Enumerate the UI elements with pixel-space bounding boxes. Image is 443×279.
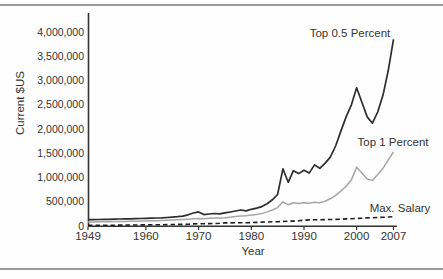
x-axis-tick-labels: 1949196019701980199020002007 <box>75 227 406 242</box>
y-tick-label: 2,500,000 <box>37 98 84 110</box>
x-axis-title: Year <box>241 245 264 257</box>
y-axis-title: Current $US <box>14 71 26 135</box>
series-line-top-1-percent <box>88 152 394 222</box>
series-label-top-0-5-percent: Top 0.5 Percent <box>310 27 391 39</box>
y-axis-tick-labels: 0500,0001,000,0001,500,0002,000,0002,500… <box>37 26 84 232</box>
top-divider-rule <box>0 4 443 6</box>
y-tick-label: 2,000,000 <box>37 123 84 135</box>
series-label-top-1-percent: Top 1 Percent <box>358 136 430 148</box>
bottom-divider-rule <box>0 268 443 270</box>
y-tick-label: 1,000,000 <box>37 171 84 183</box>
y-tick-label: 1,500,000 <box>37 147 84 159</box>
x-tick-label: 1970 <box>186 230 212 242</box>
y-tick-label: 3,500,000 <box>37 50 84 62</box>
y-tick-label: 3,000,000 <box>37 74 84 86</box>
series-line-top-0-5-percent <box>88 39 394 219</box>
line-chart: 0500,0001,000,0001,500,0002,000,0002,500… <box>0 0 443 279</box>
x-tick-label: 2007 <box>381 230 407 242</box>
series-label-max-salary: Max. Salary <box>370 202 431 214</box>
y-tick-label: 500,000 <box>46 195 84 207</box>
x-tick-label: 1990 <box>291 230 317 242</box>
x-tick-label: 1949 <box>75 230 101 242</box>
y-tick-label: 4,000,000 <box>37 26 84 38</box>
x-tick-label: 2000 <box>344 230 370 242</box>
x-tick-label: 1960 <box>133 230 159 242</box>
x-tick-label: 1980 <box>239 230 265 242</box>
figure-page: 0500,0001,000,0001,500,0002,000,0002,500… <box>0 0 443 279</box>
